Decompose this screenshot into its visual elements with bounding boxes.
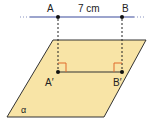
label-a: A — [47, 3, 54, 14]
label-a-prime: A′ — [45, 77, 54, 88]
point-a — [56, 15, 60, 19]
label-segment-length: 7 cm — [78, 3, 100, 14]
plane-alpha — [7, 40, 146, 117]
point-a-prime — [56, 70, 60, 74]
label-b: B — [122, 3, 129, 14]
label-plane-alpha: α — [21, 105, 26, 115]
projection-diagram: A 7 cm B A′ B′ α — [0, 0, 152, 121]
point-b-prime — [120, 70, 124, 74]
point-b — [120, 15, 124, 19]
label-b-prime: B′ — [113, 77, 122, 88]
